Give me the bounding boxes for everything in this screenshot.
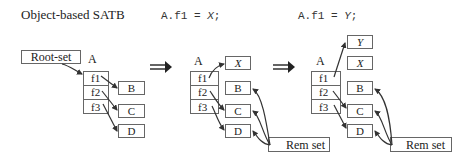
object-a-label: A <box>316 55 325 67</box>
step1-code-end: ; <box>214 10 221 22</box>
object-d-box: D <box>118 124 145 138</box>
object-a-fields: f1 f2 f3 <box>83 71 109 114</box>
object-y-box: Y <box>347 35 373 49</box>
rem-set-box: Rem set <box>390 137 452 152</box>
step2-code-prefix: A.f1 = <box>298 10 344 22</box>
object-x-box: X <box>347 56 373 70</box>
root-set-box: Root-set <box>21 50 81 64</box>
root-to-a-arrow <box>62 64 82 74</box>
diagram-title: Object-based SATB <box>21 7 125 23</box>
field-f1: f1 <box>84 72 108 86</box>
field-f2: f2 <box>312 86 340 100</box>
object-b-box: B <box>225 81 251 95</box>
field-f1: f1 <box>191 72 218 86</box>
object-c-box: C <box>225 104 251 118</box>
object-a-label: A <box>88 53 97 65</box>
step2-code-var: Y <box>344 10 351 22</box>
field-f2: f2 <box>84 86 108 100</box>
field-f2: f2 <box>191 86 218 100</box>
step1-code: A.f1 = X; <box>161 10 220 22</box>
step1-code-prefix: A.f1 = <box>161 10 207 22</box>
object-d-box: D <box>347 124 373 138</box>
rem-set-box: Rem set <box>268 137 330 152</box>
satb-diagram: Object-based SATB A.f1 = X; A.f1 = Y; Ro… <box>0 0 466 164</box>
object-x-box: X <box>225 56 251 70</box>
object-b-box: B <box>347 81 373 95</box>
field-f3: f3 <box>191 100 218 114</box>
step1-code-var: X <box>207 10 214 22</box>
object-c-box: C <box>118 104 145 118</box>
field-f3: f3 <box>84 100 108 114</box>
object-d-box: D <box>225 124 251 138</box>
object-a-fields: f1 f2 f3 <box>311 71 341 114</box>
object-a-fields: f1 f2 f3 <box>190 71 219 114</box>
field-f3: f3 <box>312 100 340 114</box>
step2-code-end: ; <box>351 10 358 22</box>
transition-arrow-icon <box>150 61 172 73</box>
transition-arrow-icon <box>273 61 295 73</box>
step2-code: A.f1 = Y; <box>298 10 357 22</box>
object-b-box: B <box>118 81 145 95</box>
field-f1: f1 <box>312 72 340 86</box>
object-a-label: A <box>194 55 203 67</box>
object-c-box: C <box>347 104 373 118</box>
